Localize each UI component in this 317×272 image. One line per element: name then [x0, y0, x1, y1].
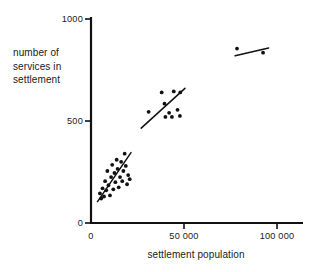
data-point: [178, 91, 182, 95]
data-point: [172, 90, 176, 94]
data-point: [108, 194, 112, 198]
data-points-group: [98, 47, 265, 201]
data-point: [235, 47, 239, 51]
data-point: [176, 108, 180, 112]
scatter-plot: 05001000050 000100 000: [0, 0, 317, 272]
data-point: [101, 186, 105, 190]
data-point: [116, 167, 120, 171]
data-point: [147, 110, 151, 114]
data-point: [105, 169, 109, 173]
data-point: [164, 115, 168, 119]
data-point: [111, 187, 115, 191]
x-axis-title: settlement population: [91, 248, 301, 261]
tick-marks-group: [85, 19, 277, 229]
data-point: [125, 182, 129, 186]
data-point: [103, 179, 107, 183]
x-tick-label: 100 000: [260, 231, 295, 241]
data-point: [128, 177, 132, 181]
data-point: [123, 152, 127, 156]
data-point: [119, 160, 123, 164]
data-point: [110, 163, 114, 167]
data-point: [124, 164, 128, 168]
data-point: [109, 175, 113, 179]
y-tick-label: 1000: [62, 14, 83, 24]
tick-labels-group: 05001000050 000100 000: [62, 14, 295, 241]
data-point: [115, 158, 119, 162]
data-point: [121, 169, 125, 173]
data-point: [118, 175, 122, 179]
data-point: [104, 188, 108, 192]
data-point: [113, 171, 117, 175]
trend-line: [98, 153, 131, 202]
data-point: [98, 192, 102, 196]
trend-lines-group: [98, 48, 269, 202]
data-point: [107, 183, 111, 187]
data-point: [126, 173, 130, 177]
y-axis-title: number of services in settlement: [13, 46, 87, 87]
data-point: [120, 179, 124, 183]
data-point: [170, 115, 174, 119]
x-tick-label: 0: [88, 231, 93, 241]
data-point: [178, 114, 182, 118]
data-point: [117, 185, 121, 189]
y-tick-label: 500: [67, 116, 83, 126]
y-tick-label: 0: [78, 218, 83, 228]
data-point: [163, 102, 167, 106]
data-point: [113, 180, 117, 184]
data-point: [160, 91, 164, 95]
x-tick-label: 50 000: [169, 231, 198, 241]
chart-page: 05001000050 000100 000 number of service…: [0, 0, 317, 272]
data-point: [261, 51, 265, 55]
data-point: [167, 111, 171, 115]
data-point: [102, 195, 106, 199]
